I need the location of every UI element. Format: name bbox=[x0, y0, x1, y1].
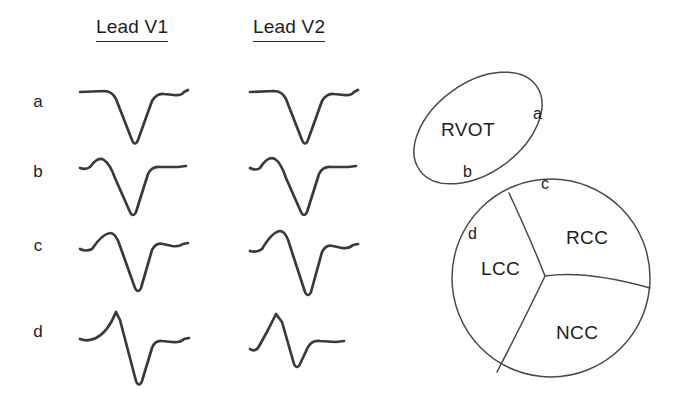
region-label-rvot: RVOT bbox=[441, 119, 495, 141]
site-label-c: c bbox=[541, 175, 549, 193]
site-label-a: a bbox=[533, 105, 542, 123]
region-label-rcc: RCC bbox=[566, 227, 608, 249]
commissure-line-rcc-ncc bbox=[545, 275, 650, 289]
cardiac-anatomy-diagram bbox=[0, 0, 686, 417]
region-label-ncc: NCC bbox=[556, 322, 598, 344]
site-label-b: b bbox=[463, 163, 472, 181]
commissure-line-lcc-ncc bbox=[497, 276, 545, 372]
region-label-lcc: LCC bbox=[481, 258, 520, 280]
ecg-anatomy-figure: Lead V1 Lead V2 a b c d RVOT RCC LCC NCC bbox=[0, 0, 686, 417]
site-label-d: d bbox=[468, 225, 477, 243]
